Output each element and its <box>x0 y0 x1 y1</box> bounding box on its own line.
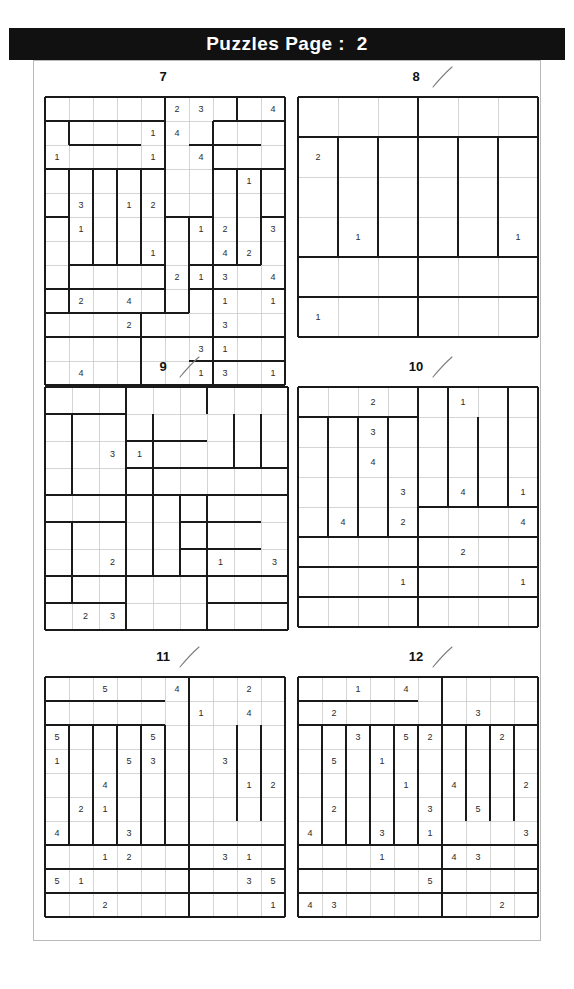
clue-cell[interactable]: 2 <box>222 224 227 234</box>
clue-cell[interactable]: 4 <box>403 684 408 694</box>
clue-cell[interactable]: 1 <box>355 232 360 242</box>
clue-cell[interactable]: 3 <box>523 828 528 838</box>
clue-cell[interactable]: 3 <box>78 200 83 210</box>
clue-cell[interactable]: 1 <box>270 296 275 306</box>
puzzle-grid-11[interactable]: 5421455153341221431231513521 <box>43 675 287 919</box>
clue-cell[interactable]: 4 <box>307 900 312 910</box>
clue-cell[interactable]: 4 <box>222 248 227 258</box>
clue-cell[interactable]: 3 <box>198 344 203 354</box>
clue-cell[interactable]: 4 <box>174 684 179 694</box>
clue-cell[interactable]: 1 <box>150 128 155 138</box>
clue-cell[interactable]: 3 <box>475 852 480 862</box>
clue-cell[interactable]: 1 <box>78 224 83 234</box>
clue-cell[interactable]: 2 <box>126 852 131 862</box>
clue-cell[interactable]: 2 <box>370 397 375 407</box>
clue-cell[interactable]: 4 <box>307 828 312 838</box>
clue-cell[interactable]: 5 <box>403 732 408 742</box>
clue-cell[interactable]: 4 <box>174 128 179 138</box>
clue-cell[interactable]: 1 <box>520 577 525 587</box>
clue-cell[interactable]: 1 <box>222 344 227 354</box>
puzzle-grid-10[interactable]: 2134341424211 <box>296 385 540 629</box>
clue-cell[interactable]: 5 <box>427 876 432 886</box>
clue-cell[interactable]: 3 <box>150 756 155 766</box>
clue-cell[interactable]: 2 <box>246 684 251 694</box>
clue-cell[interactable]: 2 <box>174 272 179 282</box>
clue-cell[interactable]: 3 <box>475 708 480 718</box>
clue-cell[interactable]: 4 <box>246 708 251 718</box>
clue-cell[interactable]: 2 <box>460 547 465 557</box>
puzzle-grid-12[interactable]: 142335225114223543131435432 <box>296 675 540 919</box>
clue-cell[interactable]: 4 <box>126 296 131 306</box>
clue-cell[interactable]: 1 <box>126 200 131 210</box>
clue-cell[interactable]: 2 <box>78 804 83 814</box>
clue-cell[interactable]: 2 <box>83 611 88 621</box>
clue-cell[interactable]: 3 <box>222 272 227 282</box>
clue-cell[interactable]: 2 <box>315 152 320 162</box>
puzzle-grid-9[interactable]: 3121323 <box>43 385 290 632</box>
clue-cell[interactable]: 2 <box>499 732 504 742</box>
clue-cell[interactable]: 3 <box>198 104 203 114</box>
clue-cell[interactable]: 1 <box>460 397 465 407</box>
clue-cell[interactable]: 3 <box>355 732 360 742</box>
clue-cell[interactable]: 3 <box>246 876 251 886</box>
clue-cell[interactable]: 1 <box>379 756 384 766</box>
clue-cell[interactable]: 1 <box>427 828 432 838</box>
clue-cell[interactable]: 2 <box>126 320 131 330</box>
clue-cell[interactable]: 4 <box>270 104 275 114</box>
clue-cell[interactable]: 4 <box>198 152 203 162</box>
clue-cell[interactable]: 4 <box>460 487 465 497</box>
clue-cell[interactable]: 4 <box>451 780 456 790</box>
clue-cell[interactable]: 1 <box>246 176 251 186</box>
clue-cell[interactable]: 1 <box>54 152 59 162</box>
clue-cell[interactable]: 3 <box>222 852 227 862</box>
clue-cell[interactable]: 2 <box>400 517 405 527</box>
clue-cell[interactable]: 2 <box>331 804 336 814</box>
clue-cell[interactable]: 1 <box>246 780 251 790</box>
clue-cell[interactable]: 3 <box>379 828 384 838</box>
clue-cell[interactable]: 4 <box>340 517 345 527</box>
puzzle-grid-8[interactable]: 2111 <box>296 95 540 339</box>
clue-cell[interactable]: 1 <box>355 684 360 694</box>
clue-cell[interactable]: 3 <box>400 487 405 497</box>
clue-cell[interactable]: 3 <box>110 449 115 459</box>
clue-cell[interactable]: 4 <box>270 272 275 282</box>
clue-cell[interactable]: 4 <box>54 828 59 838</box>
clue-cell[interactable]: 5 <box>475 804 480 814</box>
clue-cell[interactable]: 1 <box>222 296 227 306</box>
clue-cell[interactable]: 1 <box>198 708 203 718</box>
clue-cell[interactable]: 3 <box>427 804 432 814</box>
clue-cell[interactable]: 2 <box>331 708 336 718</box>
clue-cell[interactable]: 1 <box>137 449 142 459</box>
clue-cell[interactable]: 5 <box>270 876 275 886</box>
clue-cell[interactable]: 1 <box>515 232 520 242</box>
clue-cell[interactable]: 2 <box>150 200 155 210</box>
clue-cell[interactable]: 3 <box>110 611 115 621</box>
clue-cell[interactable]: 5 <box>150 732 155 742</box>
clue-cell[interactable]: 5 <box>102 684 107 694</box>
clue-cell[interactable]: 1 <box>150 248 155 258</box>
clue-cell[interactable]: 4 <box>451 852 456 862</box>
clue-cell[interactable]: 5 <box>54 732 59 742</box>
clue-cell[interactable]: 1 <box>403 780 408 790</box>
clue-cell[interactable]: 2 <box>78 296 83 306</box>
clue-cell[interactable]: 4 <box>370 457 375 467</box>
clue-cell[interactable]: 1 <box>315 312 320 322</box>
clue-cell[interactable]: 2 <box>102 900 107 910</box>
clue-cell[interactable]: 3 <box>222 756 227 766</box>
clue-cell[interactable]: 1 <box>218 557 223 567</box>
clue-cell[interactable]: 2 <box>427 732 432 742</box>
clue-cell[interactable]: 3 <box>370 427 375 437</box>
clue-cell[interactable]: 2 <box>270 780 275 790</box>
clue-cell[interactable]: 2 <box>110 557 115 567</box>
clue-cell[interactable]: 4 <box>520 517 525 527</box>
clue-cell[interactable]: 2 <box>523 780 528 790</box>
clue-cell[interactable]: 3 <box>126 828 131 838</box>
clue-cell[interactable]: 1 <box>102 804 107 814</box>
clue-cell[interactable]: 3 <box>270 224 275 234</box>
clue-cell[interactable]: 5 <box>331 756 336 766</box>
clue-cell[interactable]: 2 <box>246 248 251 258</box>
clue-cell[interactable]: 1 <box>150 152 155 162</box>
clue-cell[interactable]: 1 <box>400 577 405 587</box>
clue-cell[interactable]: 3 <box>222 320 227 330</box>
clue-cell[interactable]: 1 <box>520 487 525 497</box>
